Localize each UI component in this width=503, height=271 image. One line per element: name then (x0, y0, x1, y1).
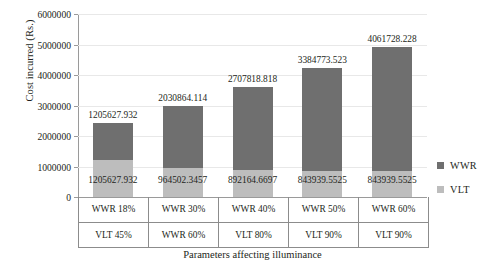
y-tick-label: 5000000 (37, 39, 71, 50)
legend-item-label: WWR (450, 160, 477, 171)
category-column: WWR 30%WWR 60% (149, 197, 219, 247)
category-label-secondary: WWR 60% (149, 222, 218, 248)
y-tick-label: 6000000 (37, 9, 71, 20)
legend-swatch-wwr (437, 162, 444, 169)
bar-segment-wwr[interactable] (302, 68, 342, 171)
plot-area: 0100000020000003000000400000050000006000… (78, 14, 427, 197)
category-label-primary: WWR 40% (219, 197, 288, 222)
category-column: WWR 40%VLT 80% (219, 197, 289, 247)
data-label-wwr: 1205627.932 (88, 110, 137, 120)
y-tick-label: 1000000 (37, 161, 71, 172)
y-tick-label: 0 (66, 192, 71, 203)
data-label-wwr: 4061728.228 (367, 34, 416, 44)
legend-item[interactable]: WWR (437, 160, 477, 171)
y-tick-label: 4000000 (37, 70, 71, 81)
category-label-primary: WWR 50% (289, 197, 358, 222)
legend-swatch-vlt (437, 186, 444, 193)
y-tick-label: 2000000 (37, 131, 71, 142)
stacked-bar-chart: Cost incurred (Rs.) 01000000200000030000… (0, 0, 503, 271)
category-label-primary: WWR 18% (79, 197, 148, 222)
y-tick-label: 3000000 (37, 100, 71, 111)
data-label-wwr: 2707818.818 (228, 74, 277, 84)
chart-legend: WWRVLT (437, 160, 477, 208)
data-label-vlt: 964502.3457 (158, 175, 207, 185)
category-label-secondary: VLT 80% (219, 222, 288, 248)
bar-segment-wwr[interactable] (93, 123, 133, 160)
category-label-secondary: VLT 90% (359, 222, 428, 248)
y-axis-title: Cost incurred (Rs.) (24, 0, 35, 136)
category-column: WWR 50%VLT 90% (289, 197, 359, 247)
legend-item-label: VLT (450, 184, 470, 195)
category-axis-table: WWR 18%VLT 45%WWR 30%WWR 60%WWR 40%VLT 8… (78, 197, 429, 248)
category-label-secondary: VLT 90% (289, 222, 358, 248)
stacked-bar[interactable] (233, 14, 273, 197)
bar-segment-wwr[interactable] (233, 87, 273, 170)
data-label-vlt: 892164.6697 (228, 175, 277, 185)
category-label-primary: WWR 30% (149, 197, 218, 222)
data-label-wwr: 3384773.523 (298, 55, 347, 65)
data-label-vlt: 843939.5525 (298, 175, 347, 185)
x-axis-title: Parameters affecting illuminance (78, 249, 427, 260)
bar-segment-wwr[interactable] (372, 47, 412, 171)
stacked-bar[interactable] (163, 14, 203, 197)
category-column: WWR 60%VLT 90% (359, 197, 428, 247)
stacked-bar[interactable] (93, 14, 133, 197)
data-label-vlt: 843939.5525 (367, 175, 416, 185)
bar-segment-wwr[interactable] (163, 106, 203, 168)
category-column: WWR 18%VLT 45% (79, 197, 149, 247)
category-label-primary: WWR 60% (359, 197, 428, 222)
category-label-secondary: VLT 45% (79, 222, 148, 248)
legend-item[interactable]: VLT (437, 184, 477, 195)
stacked-bar[interactable] (302, 14, 342, 197)
data-label-wwr: 2030864.114 (158, 93, 207, 103)
data-label-vlt: 1205627.932 (88, 175, 137, 185)
